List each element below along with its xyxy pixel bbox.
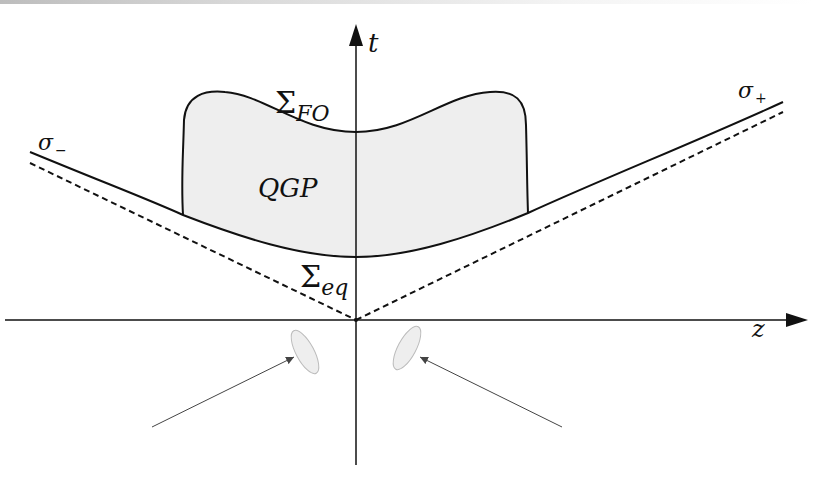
nucleus-left bbox=[286, 327, 324, 378]
z-axis-label: z bbox=[751, 315, 765, 343]
t-axis-arrowhead bbox=[349, 24, 363, 46]
equilibrium-label: Σeq bbox=[300, 259, 348, 300]
incoming-arrow-right bbox=[420, 357, 562, 427]
t-axis-label: t bbox=[368, 28, 379, 58]
origin-point bbox=[354, 318, 358, 322]
incoming-arrow-left bbox=[152, 357, 294, 427]
sigma-plus-label: σ+ bbox=[738, 78, 767, 106]
spacetime-diagram: t z σ− σ+ ΣFO Σeq QGP bbox=[0, 0, 813, 481]
qgp-label: QGP bbox=[258, 173, 318, 203]
sigma-minus-label: σ− bbox=[38, 130, 67, 158]
freeze-out-label: ΣFO bbox=[275, 85, 330, 126]
nucleus-right bbox=[388, 323, 426, 374]
z-axis-arrowhead bbox=[786, 313, 808, 327]
